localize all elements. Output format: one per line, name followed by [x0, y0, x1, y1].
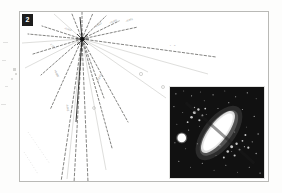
svg-text:0.000: 0.000	[49, 42, 57, 50]
svg-text:-0.004: -0.004	[64, 26, 73, 32]
galaxy-image	[170, 87, 264, 178]
scan-artifact	[5, 86, 8, 87]
ray-marker-group	[93, 72, 165, 109]
svg-text:-0.002: -0.002	[65, 103, 70, 112]
scan-artifact	[13, 68, 16, 71]
svg-text:+0.005: +0.005	[53, 68, 60, 78]
scanned-page: 2	[0, 0, 282, 193]
scan-artifact	[3, 42, 8, 43]
svg-text:-0.001: -0.001	[125, 16, 134, 22]
scan-artifact	[15, 73, 17, 75]
figure-frame: 2	[19, 11, 269, 182]
svg-text:+0.003: +0.003	[93, 20, 102, 28]
galaxy-photo-inset	[169, 86, 265, 179]
svg-text:t = 0: t = 0	[170, 43, 176, 47]
scan-residue	[24, 132, 50, 174]
figure-number-badge: 2	[22, 14, 33, 26]
scan-artifact	[1, 104, 6, 105]
ray-label-group: +0.003 +0.002 -0.001 -0.004 0.000 +0.005…	[49, 16, 176, 111]
scan-artifact	[11, 78, 13, 80]
svg-text:+0.001: +0.001	[95, 72, 103, 82]
scan-artifact	[2, 60, 6, 61]
